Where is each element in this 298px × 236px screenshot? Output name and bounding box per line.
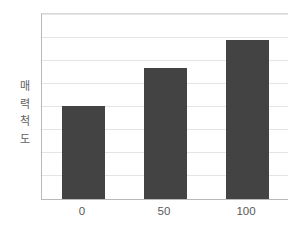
y-axis-title-char-3: 척 bbox=[14, 113, 36, 131]
x-tick-label: 100 bbox=[236, 205, 255, 217]
x-tick-label: 50 bbox=[158, 205, 171, 217]
bar bbox=[62, 106, 105, 199]
bar bbox=[226, 40, 269, 199]
bar-chart: 매 력 척 도 050100 bbox=[0, 0, 298, 236]
bar bbox=[144, 68, 187, 199]
bars-layer bbox=[42, 14, 288, 199]
y-axis-title-char-4: 도 bbox=[14, 131, 36, 149]
y-axis-title: 매 력 척 도 bbox=[14, 78, 36, 148]
plot-area bbox=[41, 13, 288, 200]
y-axis-title-char-1: 매 bbox=[14, 78, 36, 96]
y-axis-title-char-2: 력 bbox=[14, 96, 36, 114]
x-tick-label: 0 bbox=[79, 205, 85, 217]
x-axis-tick-labels: 050100 bbox=[41, 205, 288, 225]
